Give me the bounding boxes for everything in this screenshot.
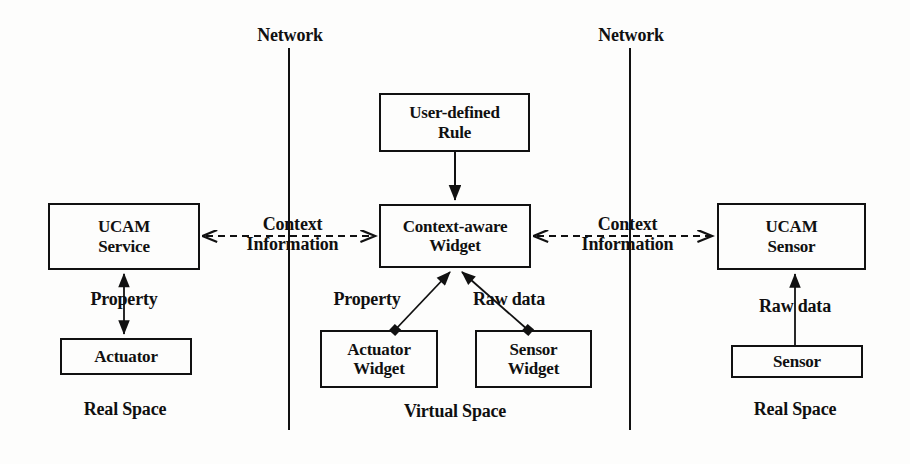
node-sensor-widget-label: Sensor Widget: [477, 340, 590, 378]
zone-label-virtual-space: Virtual Space: [395, 402, 515, 422]
node-sensor-label: Sensor: [733, 352, 861, 371]
node-user-defined-rule[interactable]: User-defined Rule: [379, 93, 530, 152]
node-ucam-service-label: UCAM Service: [50, 217, 198, 255]
network-label-left: Network: [240, 26, 340, 46]
zone-label-real-space-left: Real Space: [65, 400, 185, 420]
node-sensor[interactable]: Sensor: [731, 345, 863, 378]
node-actuator-widget[interactable]: Actuator Widget: [320, 330, 438, 388]
edge-label-raw-data-widget: Raw data: [450, 290, 568, 310]
edge-label-property-widget: Property: [312, 290, 422, 310]
network-label-right: Network: [581, 26, 681, 46]
node-context-aware-widget[interactable]: Context-aware Widget: [379, 204, 531, 268]
node-actuator[interactable]: Actuator: [60, 338, 192, 375]
zone-label-real-space-right: Real Space: [735, 400, 855, 420]
edge-label-property-left: Property: [64, 290, 184, 310]
node-context-aware-widget-label: Context-aware Widget: [381, 217, 529, 255]
node-actuator-widget-label: Actuator Widget: [322, 340, 436, 378]
node-ucam-service[interactable]: UCAM Service: [48, 203, 200, 270]
edge-label-raw-data-right: Raw data: [736, 297, 854, 317]
node-sensor-widget[interactable]: Sensor Widget: [475, 330, 592, 388]
node-ucam-sensor-label: UCAM Sensor: [719, 217, 864, 255]
node-user-defined-rule-label: User-defined Rule: [381, 103, 528, 141]
node-ucam-sensor[interactable]: UCAM Sensor: [717, 203, 866, 270]
edge-label-context-information-left: Context Information: [205, 215, 380, 255]
node-actuator-label: Actuator: [62, 347, 190, 366]
figure-canvas: Network Network UCAM Service Actuator Us…: [0, 0, 910, 464]
edge-label-context-information-right: Context Information: [540, 215, 715, 255]
